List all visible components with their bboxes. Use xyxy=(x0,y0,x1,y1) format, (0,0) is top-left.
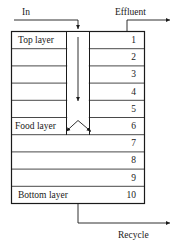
row-number: 5 xyxy=(120,105,136,115)
top-layer-label: Top layer xyxy=(18,36,54,46)
row-number: 7 xyxy=(120,139,136,149)
effluent-flow-line xyxy=(127,20,170,31)
inlet-flow-line xyxy=(14,20,78,29)
row-number: 1 xyxy=(120,36,136,46)
row-number: 9 xyxy=(120,174,136,184)
row-number: 3 xyxy=(120,70,136,80)
recycle-label: Recycle xyxy=(118,231,149,241)
row-number: 8 xyxy=(120,156,136,166)
row-number: 6 xyxy=(120,122,136,132)
effluent-label: Effluent xyxy=(115,8,146,18)
recycle-flow-line xyxy=(78,204,170,224)
reactor-column-diagram: In Effluent Recycle Top layer Food layer… xyxy=(0,0,174,246)
row-number: 4 xyxy=(120,88,136,98)
row-number: 2 xyxy=(120,53,136,63)
inlet-label: In xyxy=(22,8,30,18)
food-layer-label: Food layer xyxy=(15,122,56,132)
row-number: 10 xyxy=(120,191,136,201)
bottom-layer-label: Bottom layer xyxy=(18,191,68,201)
